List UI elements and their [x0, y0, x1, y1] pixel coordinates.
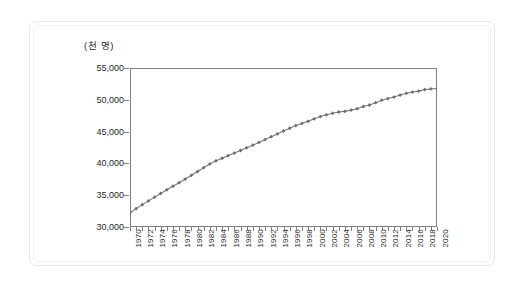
data-point-marker — [300, 122, 304, 126]
data-point-marker — [386, 97, 390, 101]
y-axis-tick-mark — [124, 227, 129, 228]
y-axis-tick-label: 50,000 — [96, 95, 124, 105]
data-point-marker — [325, 113, 329, 117]
x-axis-tick-mark — [437, 227, 438, 231]
x-axis-tick-label: 2016 — [416, 229, 425, 248]
data-point-marker — [429, 87, 433, 91]
x-axis-tick-label: 2010 — [379, 229, 388, 248]
x-axis-tick-label: 1970 — [134, 229, 143, 248]
x-axis-tick-label: 1974 — [158, 229, 167, 248]
data-point-marker — [417, 89, 421, 93]
x-axis-tick-label: 1994 — [281, 229, 290, 248]
data-point-marker — [245, 146, 249, 150]
data-point-marker — [220, 156, 224, 160]
x-axis-tick-label: 2004 — [342, 229, 351, 248]
x-axis-tick-label: 1976 — [170, 229, 179, 248]
data-point-marker — [343, 109, 347, 113]
x-axis-tick-label: 2014 — [404, 229, 413, 248]
x-axis-tick-label: 2000 — [318, 229, 327, 248]
line-series-svg — [130, 68, 437, 227]
data-point-marker — [294, 124, 298, 128]
x-axis-tick-labels: 1970197219741976197819801982198419861988… — [130, 229, 437, 279]
y-axis-tick-label: 45,000 — [96, 127, 124, 137]
y-axis-tick-mark — [124, 100, 129, 101]
data-point-marker — [306, 119, 310, 123]
x-axis-tick-label: 1986 — [232, 229, 241, 248]
y-axis-tick-labels: 55,00050,00045,00040,00035,00030,000 — [66, 68, 124, 227]
x-axis-tick-label: 2002 — [330, 229, 339, 248]
y-axis-tick-mark — [124, 68, 129, 69]
series-line — [130, 88, 437, 212]
data-point-marker — [269, 135, 273, 139]
data-point-marker — [318, 115, 322, 119]
x-axis-tick-label: 1998 — [305, 229, 314, 248]
y-axis-tick-label: 35,000 — [96, 190, 124, 200]
y-axis-tick-mark — [124, 163, 129, 164]
x-axis-tick-label: 2018 — [428, 229, 437, 248]
data-point-marker — [263, 138, 267, 142]
x-axis-tick-label: 1978 — [183, 229, 192, 248]
data-point-marker — [251, 143, 255, 147]
data-point-marker — [361, 105, 365, 109]
data-point-marker — [214, 159, 218, 163]
y-axis-tick-label: 40,000 — [96, 158, 124, 168]
plot-area — [130, 68, 437, 227]
data-point-marker — [257, 141, 261, 145]
data-point-marker — [239, 149, 243, 153]
data-point-marker — [337, 110, 341, 114]
x-axis-tick-label: 1996 — [293, 229, 302, 248]
x-axis-tick-label: 2020 — [441, 229, 450, 248]
data-point-marker — [423, 88, 427, 92]
x-axis-tick-label: 1988 — [244, 229, 253, 248]
data-point-marker — [435, 87, 437, 91]
data-point-marker — [288, 126, 292, 130]
data-point-marker — [374, 101, 378, 105]
data-point-marker — [331, 111, 335, 115]
data-point-marker — [349, 108, 353, 112]
data-point-marker — [312, 117, 316, 121]
x-axis-tick-label: 1972 — [146, 229, 155, 248]
y-axis-tick-label: 30,000 — [96, 222, 124, 232]
x-axis-tick-label: 1984 — [219, 229, 228, 248]
data-point-marker — [368, 103, 372, 107]
x-axis-tick-label: 2008 — [367, 229, 376, 248]
y-axis-tick-mark — [124, 195, 129, 196]
data-point-marker — [392, 95, 396, 99]
y-axis-unit-label: (천 명) — [84, 38, 114, 52]
x-axis-tick-label: 2012 — [391, 229, 400, 248]
data-point-marker — [404, 91, 408, 95]
data-point-marker — [275, 132, 279, 136]
x-axis-tick-label: 1980 — [195, 229, 204, 248]
data-point-marker — [380, 98, 384, 102]
x-axis-tick-label: 2006 — [355, 229, 364, 248]
data-point-marker — [355, 107, 359, 111]
data-point-marker — [411, 90, 415, 94]
data-point-marker — [398, 93, 402, 97]
x-axis-tick-label: 1992 — [269, 229, 278, 248]
x-axis-tick-label: 1982 — [207, 229, 216, 248]
data-point-marker — [232, 151, 236, 155]
data-point-marker — [226, 154, 230, 158]
x-axis-tick-label: 1990 — [256, 229, 265, 248]
y-axis-tick-mark — [124, 132, 129, 133]
y-axis-tick-label: 55,000 — [96, 63, 124, 73]
data-point-marker — [282, 129, 286, 133]
figure-root: (천 명) 55,00050,00045,00040,00035,00030,0… — [0, 0, 523, 288]
